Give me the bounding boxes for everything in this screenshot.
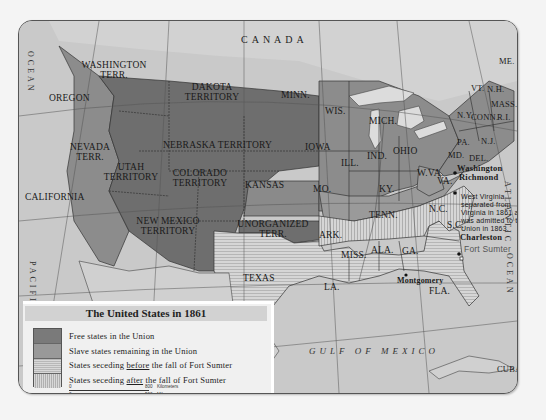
- label-del: DEL.: [469, 154, 488, 163]
- scale-km-max: 800: [145, 384, 153, 389]
- label-minn: MINN.: [281, 91, 310, 101]
- label-ind: IND.: [367, 152, 387, 162]
- label-unorganized-terr: UNORGANIZED TERR.: [233, 220, 313, 239]
- label-washington-terr: WASHINGTON TERR.: [74, 61, 154, 80]
- label-ocean-west: OCEAN: [26, 51, 34, 94]
- label-cuba: CUBA: [497, 365, 518, 374]
- legend-title: The United States in 1861: [25, 306, 267, 321]
- legend-swatches: [33, 328, 62, 387]
- city-fort-sumter: Fort Sumter: [464, 245, 511, 254]
- city-richmond: Richmond: [459, 173, 498, 182]
- label-utah-territory: UTAH TERRITORY: [101, 163, 161, 182]
- label-ala: ALA.: [371, 246, 394, 256]
- label-me: ME.: [499, 57, 514, 66]
- annotation-west-virginia: West Virginia separated from Virginia in…: [461, 193, 518, 233]
- label-mass: MASS.: [491, 100, 517, 109]
- label-ky: KY.: [379, 185, 394, 195]
- map-frame: CANADA OCEAN PACIFIC ATLANTIC OCEAN GULF…: [18, 20, 518, 394]
- label-ark: ARK.: [319, 231, 342, 241]
- label-ga: GA.: [402, 247, 419, 257]
- scale-mi-unit: Miles: [157, 392, 168, 394]
- label-dakota-territory: DAKOTA TERRITORY: [177, 83, 247, 102]
- label-vt: VT.: [471, 84, 484, 93]
- label-wis: WIS.: [325, 107, 346, 117]
- legend-text: the fall of Fort Sumter: [149, 360, 232, 370]
- label-tenn: TENN.: [369, 211, 398, 221]
- label-iowa: IOWA: [305, 143, 331, 153]
- label-pa: PA.: [457, 138, 470, 147]
- scale-mi-max: 500: [145, 392, 153, 394]
- label-oregon: OREGON: [49, 94, 90, 104]
- scale-mi-zero: 0: [69, 392, 72, 394]
- legend-emphasis: after: [127, 375, 144, 385]
- label-ill: ILL.: [341, 159, 359, 169]
- label-nc: N.C.: [429, 205, 448, 215]
- label-canada: CANADA: [241, 35, 308, 45]
- city-montgomery: Montgomery: [397, 277, 443, 285]
- legend-item-before: States seceding before the fall of Fort …: [69, 358, 232, 373]
- swatch-free-states: [34, 329, 61, 344]
- label-gulf-of-mexico: GULF OF MEXICO: [309, 347, 439, 356]
- legend-text: the fall of Fort Sumter: [143, 375, 226, 385]
- label-nevada-terr: NEVADA TERR.: [65, 143, 115, 162]
- label-ohio: OHIO: [393, 147, 418, 157]
- legend-text: States seceding: [69, 360, 127, 370]
- swatch-seceding-before: [34, 359, 61, 374]
- label-conn: CONN.: [471, 113, 498, 122]
- label-la: LA.: [324, 283, 340, 293]
- label-california: CALIFORNIA: [25, 193, 85, 203]
- label-nh: N.H.: [487, 85, 504, 94]
- legend: The United States in 1861 Free states in…: [23, 301, 274, 394]
- legend-item-slave: Slave states remaining in the Union: [69, 344, 232, 359]
- legend-emphasis: before: [127, 360, 150, 370]
- swatch-seceding-after: [34, 374, 61, 388]
- scale-km-zero: 0: [69, 384, 72, 389]
- legend-item-free: Free states in the Union: [69, 329, 232, 344]
- label-miss: MISS.: [341, 251, 367, 261]
- label-mich: MICH.: [369, 117, 397, 127]
- label-va: VA.: [437, 177, 452, 187]
- scale-bar: 0 800 Kilometers 0 500 Miles: [69, 386, 154, 394]
- label-texas: TEXAS: [243, 274, 275, 284]
- label-ocean-east: OCEAN: [505, 253, 513, 296]
- label-md: MD.: [448, 151, 464, 160]
- legend-items: Free states in the Union Slave states re…: [69, 329, 232, 387]
- scale-line: [69, 390, 149, 391]
- city-charleston: Charleston: [460, 233, 502, 242]
- label-new-mexico-territory: NEW MEXICO TERRITORY: [133, 217, 203, 236]
- legend-text: States seceding: [69, 375, 127, 385]
- swatch-slave-states: [34, 344, 61, 359]
- scale-km-unit: Kilometers: [157, 384, 178, 389]
- label-nj: N.J.: [481, 137, 496, 146]
- label-colorado-territory: COLORADO TERRITORY: [167, 169, 233, 188]
- label-nebraska-territory: NEBRASKA TERRITORY: [163, 141, 272, 151]
- label-ri: R.I.: [497, 113, 511, 122]
- label-fla: FLA.: [429, 287, 450, 297]
- label-kansas: KANSAS: [245, 181, 284, 191]
- label-mo: MO.: [313, 185, 331, 195]
